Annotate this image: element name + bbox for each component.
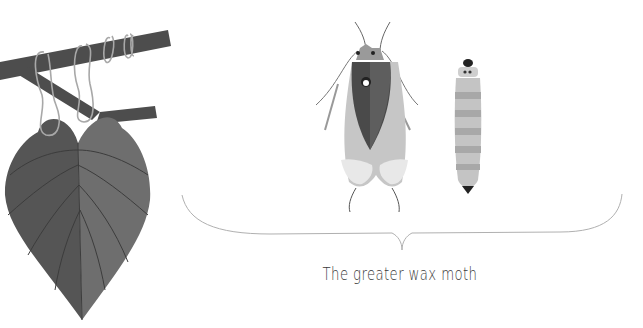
moth-icon [316, 22, 418, 212]
larva-icon [455, 59, 482, 194]
branch-icon [0, 30, 171, 124]
bracket-icon [182, 194, 622, 250]
caption: The greater wax moth [322, 264, 478, 284]
leaf-icon [5, 117, 150, 320]
